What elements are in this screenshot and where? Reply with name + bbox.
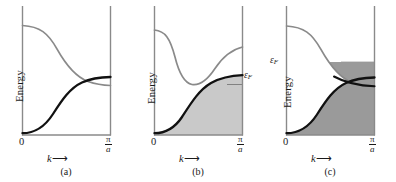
panel-c: Energy εF 0 π a k⟶ (c) [264, 0, 396, 182]
panel-b-caption: (b) [132, 166, 264, 177]
panel-b-x-axis-label: k⟶ [179, 152, 199, 164]
panel-b-tick-max-denominator: a [237, 145, 244, 154]
panel-b-x-axis-arrow-icon: ⟶ [184, 153, 199, 164]
panel-c-tick-max: π a [369, 135, 376, 154]
panel-c-tick-max-denominator: a [369, 145, 376, 154]
panel-a: Energy 0 π a k⟶ (a) [0, 0, 132, 182]
panel-b-y-axis-label: Energy [146, 72, 157, 104]
panel-b-tick-origin: 0 [151, 136, 156, 147]
panel-c-caption: (c) [264, 166, 396, 177]
panel-c-upper-filled-group [287, 62, 375, 88]
panel-c-fermi-subscript: F [274, 58, 278, 66]
panel-c-y-axis-label: Energy [282, 76, 293, 108]
panel-b-tick-max: π a [237, 135, 244, 154]
panel-b: Energy εF 0 π a k⟶ (b) [132, 0, 264, 182]
panel-c-x-axis-label: k⟶ [311, 152, 331, 164]
panel-a-upper-band-curve [23, 26, 111, 86]
panel-a-tick-origin: 0 [19, 136, 24, 147]
panel-c-fermi-level-label: εF [270, 55, 278, 66]
panel-b-fermi-level-label: εF [244, 70, 252, 81]
panel-c-filled-upper-band [287, 62, 375, 88]
panel-a-lower-band-curve [23, 77, 111, 133]
panel-a-x-axis-label: k⟶ [47, 152, 67, 164]
panel-c-x-axis-arrow-icon: ⟶ [316, 153, 331, 164]
band-structure-figure: Energy 0 π a k⟶ (a) [0, 0, 396, 182]
panel-a-caption: (a) [0, 166, 132, 177]
panel-a-y-axis-label: Energy [14, 70, 25, 102]
panel-a-x-axis-arrow-icon: ⟶ [52, 153, 67, 164]
panel-a-tick-max: π a [105, 135, 112, 154]
panel-c-tick-origin: 0 [283, 136, 288, 147]
panel-a-tick-max-denominator: a [105, 145, 112, 154]
panel-b-fermi-subscript: F [248, 73, 252, 81]
